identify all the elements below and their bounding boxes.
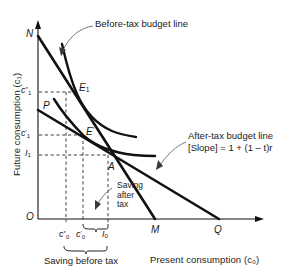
x-axis-title: Present consumption (c₀) <box>150 255 259 266</box>
point-label-E1: E1 <box>79 82 89 94</box>
y-tick-c1-star-sub: 1 <box>28 89 31 96</box>
point-label-E1-base: E <box>79 82 86 93</box>
saving-after-tax-line-3: tax <box>117 200 143 210</box>
point-label-E-prime-base: E <box>86 126 93 137</box>
x-axis-arrowhead <box>255 216 264 222</box>
saving-before-tax-brace <box>64 246 107 254</box>
y-tick-label-c1-prime: c′1 <box>21 128 30 139</box>
x-axis-title-text: Present consumption (c₀) <box>150 254 259 265</box>
point-label-E1-sub: 1 <box>86 86 90 93</box>
x-tick-c0-star-sub: 0 <box>66 233 69 240</box>
point-label-E-prime: E′ <box>86 126 94 138</box>
saving-after-tax-leader <box>95 188 112 210</box>
saving-before-tax-text: Saving before tax <box>44 255 118 266</box>
point-label-A-text: A <box>108 161 115 172</box>
saving-before-tax-label: Saving before tax <box>44 256 118 267</box>
after-tax-callout-leader <box>156 142 186 170</box>
x-tick-c0-prime-sub: 0 <box>82 233 85 240</box>
after-tax-slope-text: [Slope] = 1 + (1 – t)r <box>188 143 273 154</box>
after-tax-budget-line-text: After-tax budget line <box>188 131 273 142</box>
before-tax-callout-leader <box>59 26 93 56</box>
before-tax-budget-line-text: Before-tax budget line <box>95 18 188 29</box>
origin-label-text: O <box>26 211 34 222</box>
point-label-Q: Q <box>214 224 222 236</box>
point-label-E-prime-sup: ′ <box>93 126 94 133</box>
point-label-N-text: N <box>26 28 33 39</box>
budget-line-diagram: Future consumption (c₁) Present consumpt… <box>0 0 282 274</box>
point-label-A: A <box>108 161 115 173</box>
y-axis-arrowhead <box>35 20 41 29</box>
y-tick-c1-prime-sub: 1 <box>27 132 30 139</box>
x-tick-I0-sub: 0 <box>105 232 108 239</box>
y-tick-label-c1-star: c*1 <box>21 85 31 96</box>
point-label-Q-text: Q <box>214 224 222 235</box>
origin-label: O <box>26 211 34 223</box>
before-tax-budget-line-label: Before-tax budget line <box>95 19 188 30</box>
point-label-M: M <box>151 224 159 236</box>
y-tick-I1-sub: 1 <box>28 151 31 158</box>
saving-after-tax-label: Saving after tax <box>117 181 143 210</box>
x-tick-label-I0: I0 <box>102 229 108 239</box>
x-tick-label-c0-star: c*0 <box>59 229 69 240</box>
after-tax-budget-line-label: After-tax budget line [Slope] = 1 + (1 –… <box>188 131 273 154</box>
y-tick-label-I1: I1 <box>25 148 31 158</box>
point-label-M-text: M <box>151 224 159 235</box>
point-label-N: N <box>26 28 33 40</box>
point-label-P: P <box>43 100 50 112</box>
point-label-P-text: P <box>43 100 50 111</box>
x-tick-label-c0-prime: c′0 <box>76 229 85 240</box>
